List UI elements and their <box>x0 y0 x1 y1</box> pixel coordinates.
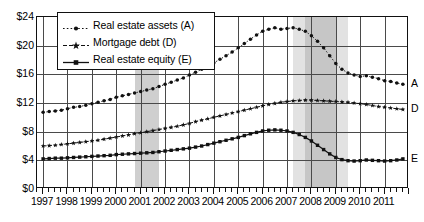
x-tick-major <box>359 188 360 194</box>
data-point <box>138 130 143 135</box>
data-point <box>352 73 356 77</box>
data-point <box>346 159 349 162</box>
legend-label-d: Mortgage debt (D) <box>93 37 177 48</box>
data-point <box>218 58 222 62</box>
data-point <box>199 118 204 123</box>
data-point <box>212 141 215 144</box>
y-tick-label-16: $16 <box>0 68 34 78</box>
data-point <box>401 107 406 112</box>
data-point <box>243 134 246 137</box>
data-point <box>65 141 70 146</box>
data-point <box>401 157 404 160</box>
x-tick-minor <box>182 188 183 192</box>
data-point <box>328 54 332 58</box>
data-point <box>327 99 332 104</box>
data-point <box>78 155 81 158</box>
data-point <box>115 96 119 100</box>
x-tick-minor <box>109 188 110 192</box>
x-tick-major <box>237 188 238 194</box>
data-point <box>316 40 320 44</box>
data-point <box>376 104 381 109</box>
data-point <box>334 156 337 159</box>
y-tick-label-12: $12 <box>0 97 34 107</box>
x-tick-minor <box>365 188 366 192</box>
data-point <box>47 110 51 114</box>
data-point <box>132 131 137 136</box>
data-point <box>41 157 44 160</box>
data-point <box>388 106 393 111</box>
x-tick-minor <box>371 188 372 192</box>
data-point <box>83 139 88 144</box>
data-point <box>273 26 277 30</box>
data-point <box>322 46 326 50</box>
data-point <box>273 128 276 131</box>
chart-legend: Real estate assets (A) Mortgage debt (D)… <box>57 12 215 70</box>
x-tick-minor <box>225 188 226 192</box>
x-tick-major <box>262 188 263 194</box>
data-point <box>310 34 314 38</box>
data-point <box>242 108 247 113</box>
data-point <box>176 78 180 82</box>
data-point <box>145 151 148 154</box>
x-tick-major <box>408 188 409 194</box>
data-point <box>358 75 362 79</box>
data-point <box>188 146 191 149</box>
x-tick-minor <box>85 188 86 192</box>
data-point <box>121 153 124 156</box>
data-point <box>383 79 387 83</box>
data-point <box>365 74 369 78</box>
data-point <box>54 109 58 113</box>
data-point <box>382 105 387 110</box>
data-point <box>41 111 45 115</box>
x-tick-major <box>115 188 116 194</box>
data-point <box>218 140 221 143</box>
x-tick-minor <box>170 188 171 192</box>
data-point <box>322 148 325 151</box>
data-point <box>78 105 82 109</box>
data-point <box>206 143 209 146</box>
data-point <box>309 98 314 103</box>
data-point <box>127 152 130 155</box>
data-point <box>395 81 399 85</box>
data-point <box>187 121 192 126</box>
data-point <box>96 101 100 105</box>
x-tick-minor <box>73 188 74 192</box>
data-point <box>261 30 265 34</box>
data-point <box>181 122 186 127</box>
data-point <box>157 85 161 89</box>
data-point <box>304 136 307 139</box>
x-tick-minor <box>97 188 98 192</box>
data-point <box>47 143 52 148</box>
x-tick-minor <box>256 188 257 192</box>
x-tick-minor <box>268 188 269 192</box>
data-point <box>346 100 351 105</box>
data-point <box>48 157 51 160</box>
series-line-D <box>43 100 403 146</box>
data-point <box>108 154 111 157</box>
data-point <box>102 137 107 142</box>
data-point <box>310 139 313 142</box>
data-point <box>236 109 241 114</box>
data-point <box>151 87 155 91</box>
data-point <box>340 158 343 161</box>
data-point <box>358 101 363 106</box>
data-point <box>352 159 355 162</box>
data-point <box>163 126 168 131</box>
data-point <box>163 83 167 87</box>
data-point <box>54 156 57 159</box>
data-point <box>151 151 154 154</box>
y-tick-label-4: $4 <box>0 154 34 164</box>
data-point <box>237 136 240 139</box>
x-tick-minor <box>36 188 37 192</box>
data-point <box>371 159 374 162</box>
data-point <box>182 76 186 80</box>
data-point <box>72 106 76 110</box>
x-tick-minor <box>195 188 196 192</box>
data-point <box>66 107 70 111</box>
data-point <box>60 108 64 112</box>
x-tick-minor <box>60 188 61 192</box>
data-point <box>370 103 375 108</box>
data-point <box>90 155 93 158</box>
data-point <box>328 152 331 155</box>
data-point <box>200 144 203 147</box>
